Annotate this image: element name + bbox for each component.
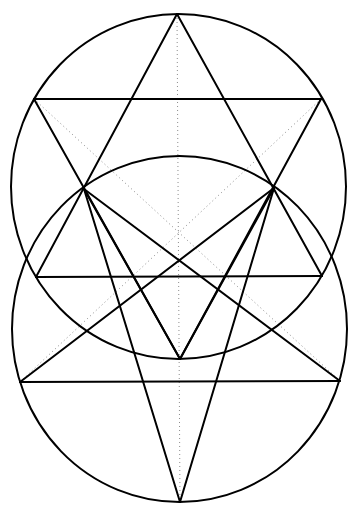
diagonal-upper-right-to-low-left bbox=[20, 99, 321, 382]
left-cross-to-bottom-apex bbox=[84, 189, 180, 502]
right-cross-to-low-left bbox=[20, 188, 274, 382]
left-cross-to-low-right bbox=[84, 189, 340, 381]
up-triangle-left-side bbox=[36, 14, 177, 277]
diagonal-upper-left-to-low-right bbox=[34, 99, 340, 381]
lower-horizontal bbox=[20, 381, 340, 382]
dotted-construction-lines bbox=[20, 14, 340, 502]
up-triangle-right-side bbox=[177, 14, 322, 276]
left-cross-to-inner-bottom bbox=[84, 189, 180, 359]
geometric-star-diagram bbox=[0, 0, 359, 514]
right-cross-to-inner-bottom bbox=[180, 188, 274, 359]
solid-lines bbox=[20, 14, 340, 502]
right-cross-to-bottom-apex bbox=[180, 188, 274, 502]
middle-horizontal bbox=[36, 276, 322, 277]
